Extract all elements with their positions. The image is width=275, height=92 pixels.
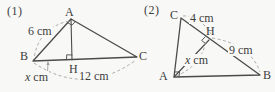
figure1-index-label: (1) bbox=[7, 5, 23, 17]
figure1-x-arrow-head bbox=[46, 61, 49, 66]
figure1-measure-side-bc: 12 cm bbox=[78, 70, 110, 82]
figure1-vertex-label-a: A bbox=[65, 6, 74, 18]
figure1-vertex-label-c: C bbox=[139, 50, 147, 62]
figure2-right-angle-marker-h bbox=[202, 37, 206, 44]
figure2-vertex-label-h: H bbox=[206, 25, 215, 37]
figure2-measure-seg-ch: 4 cm bbox=[189, 12, 215, 24]
figure1-measure-seg-bh: x cm bbox=[24, 71, 49, 83]
figure1-vertex-label-b: B bbox=[20, 50, 28, 62]
figure2-vertex-label-b: B bbox=[263, 69, 271, 81]
figure2-vertex-label-a: A bbox=[159, 70, 168, 82]
figure2-measure-seg-hb: 9 cm bbox=[228, 44, 254, 56]
figure2-vertex-label-c: C bbox=[170, 9, 178, 21]
figure2-measure-seg-ah-unit: cm bbox=[190, 53, 208, 67]
figure1-measure-seg-bh-unit: cm bbox=[30, 70, 48, 84]
figure1-vertex-label-h: H bbox=[69, 63, 78, 75]
figure1-measure-side-ab: 6 cm bbox=[27, 25, 53, 37]
figure2-measure-seg-ah: x cm bbox=[184, 54, 209, 66]
geometry-worksheet: (1) A B C H 6 cm x cm 12 cm (2) C A B H … bbox=[0, 0, 275, 92]
figure2-index-label: (2) bbox=[144, 4, 160, 16]
